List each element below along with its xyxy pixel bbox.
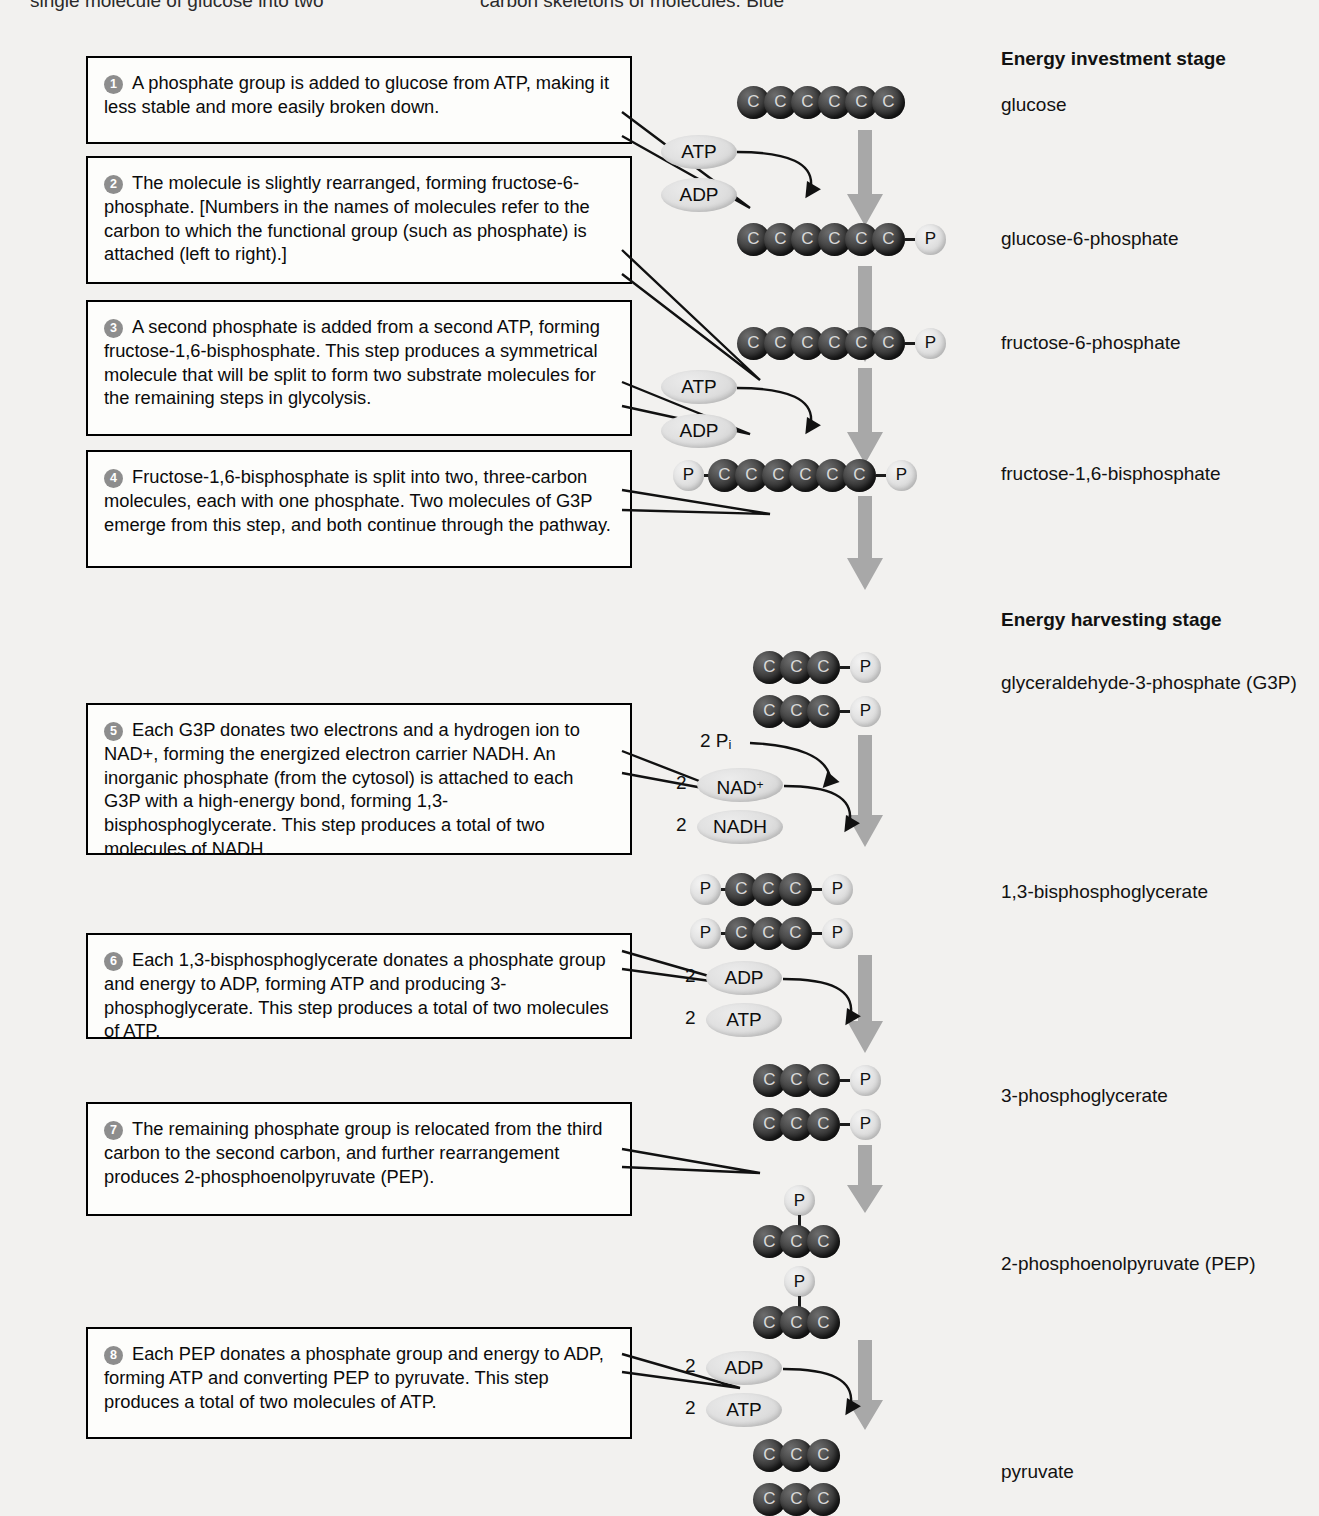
step-callout-7: 7The remaining phosphate group is reloca… <box>86 1102 632 1216</box>
phosphate-group <box>915 224 946 255</box>
step-text-5: Each G3P donates two electrons and a hyd… <box>104 719 580 859</box>
phosphate-group <box>850 1065 881 1096</box>
cofactor-atp-2: ATP <box>661 370 737 404</box>
cofactor-atp-3: ATP <box>706 1003 782 1037</box>
carbon-atom <box>872 327 905 360</box>
carbon-atom <box>807 1225 840 1258</box>
molecule-pyruvate-copy-1 <box>753 1438 840 1472</box>
reaction-arrow-3 <box>845 368 885 468</box>
step-text-1: A phosphate group is added to glucose fr… <box>104 72 609 117</box>
step-callout-2: 2The molecule is slightly rearranged, fo… <box>86 156 632 284</box>
inorganic-phosphate-label: 2 Pi <box>700 730 731 752</box>
molecule-label-glucose-6-phosphate: glucose-6-phosphate <box>1001 228 1178 250</box>
stage-title-energy-harvesting: Energy harvesting stage <box>1001 609 1222 631</box>
cut-text-right: carbon skeletons of molecules. Blue <box>480 0 784 12</box>
molecule-g3p-copy-1 <box>753 650 881 684</box>
molecule-pep-copy-2 <box>753 1266 863 1346</box>
reaction-arrow-6 <box>845 955 885 1057</box>
cofactor-adp-2: ADP <box>661 414 737 448</box>
bond-line <box>905 342 915 345</box>
molecule-label-pyruvate: pyruvate <box>1001 1461 1074 1483</box>
adp-coefficient-2: 2 <box>685 1355 696 1377</box>
carbon-atom <box>807 1108 840 1141</box>
bond-line <box>840 666 850 669</box>
bond-line <box>840 1079 850 1082</box>
bond-line <box>876 474 886 477</box>
carbon-atom <box>807 1483 840 1516</box>
phosphate-group <box>850 652 881 683</box>
molecule-label-glucose: glucose <box>1001 94 1067 116</box>
molecule-g3p-copy-2 <box>753 694 881 728</box>
step-callout-1: 1A phosphate group is added to glucose f… <box>86 56 632 144</box>
cofactor-adp-1: ADP <box>661 178 737 212</box>
step-badge-4: 4 <box>104 469 123 488</box>
phosphate-group <box>915 328 946 359</box>
carbon-atom <box>807 695 840 728</box>
cofactor-atp-4: ATP <box>706 1393 782 1427</box>
step-badge-5: 5 <box>104 722 123 741</box>
molecule-3pg-copy-1 <box>753 1063 881 1097</box>
step-text-2: The molecule is slightly rearranged, for… <box>104 172 590 264</box>
carbon-atom <box>807 1306 840 1339</box>
bond-line <box>812 888 822 891</box>
cofactor-arrow-1 <box>735 140 845 210</box>
carbon-atom <box>807 651 840 684</box>
carbon-atom <box>872 223 905 256</box>
phosphate-group <box>784 1266 815 1297</box>
cofactor-atp-1: ATP <box>661 135 737 169</box>
cofactor-adp-4: ADP <box>706 1351 782 1385</box>
cofactor-nad-plus: NAD+ <box>697 768 783 802</box>
reaction-arrow-5 <box>845 735 885 851</box>
step-badge-7: 7 <box>104 1121 123 1140</box>
phosphate-group <box>850 1109 881 1140</box>
bond-line <box>840 710 850 713</box>
step-callout-8: 8Each PEP donates a phosphate group and … <box>86 1327 632 1439</box>
reaction-arrow-1 <box>845 130 885 230</box>
page-top-cut-text: single molecule of glucose into two carb… <box>0 0 1319 18</box>
molecule-glucose-6-phosphate <box>737 222 946 256</box>
atp-coefficient-2: 2 <box>685 1397 696 1419</box>
molecule-13bpg-copy-1 <box>690 872 853 906</box>
bond-line <box>905 238 915 241</box>
step-badge-6: 6 <box>104 952 123 971</box>
step-callout-4: 4Fructose-1,6-bisphosphate is split into… <box>86 450 632 568</box>
carbon-atom <box>807 1064 840 1097</box>
step-badge-2: 2 <box>104 175 123 194</box>
molecule-label-pep: 2-phosphoenolpyruvate (PEP) <box>1001 1253 1256 1275</box>
carbon-atom <box>843 459 876 492</box>
nadh-coefficient: 2 <box>676 814 687 836</box>
step-text-3: A second phosphate is added from a secon… <box>104 316 600 408</box>
phosphate-group <box>886 460 917 491</box>
step-text-6: Each 1,3-bisphosphoglycerate donates a p… <box>104 949 609 1041</box>
step-callout-3: 3A second phosphate is added from a seco… <box>86 300 632 436</box>
molecule-label-3pg: 3-phosphoglycerate <box>1001 1085 1168 1107</box>
adp-coefficient-1: 2 <box>685 965 696 987</box>
phosphate-group <box>822 918 853 949</box>
phosphate-group <box>784 1185 815 1216</box>
phosphate-group <box>690 918 721 949</box>
pointer-line-2 <box>620 240 770 390</box>
step-badge-8: 8 <box>104 1346 123 1365</box>
molecule-pep-copy-1 <box>753 1185 863 1265</box>
carbon-atom <box>872 86 905 119</box>
reaction-arrow-4 <box>845 496 885 594</box>
step-badge-1: 1 <box>104 75 123 94</box>
carbon-atom <box>779 917 812 950</box>
carbon-atom <box>779 873 812 906</box>
molecule-fructose-1-6-bisphosphate <box>673 458 917 492</box>
stage-title-energy-investment: Energy investment stage <box>1001 48 1226 70</box>
molecule-label-g3p: glyceraldehyde-3-phosphate (G3P) <box>1001 672 1297 694</box>
nad-coefficient: 2 <box>676 772 687 794</box>
reaction-arrow-8 <box>845 1340 885 1432</box>
molecule-label-fructose-6-phosphate: fructose-6-phosphate <box>1001 332 1181 354</box>
bond-line <box>812 932 822 935</box>
step-text-7: The remaining phosphate group is relocat… <box>104 1118 603 1187</box>
cut-text-left: single molecule of glucose into two <box>30 0 324 12</box>
molecule-label-fructose-1-6-bisphosphate: fructose-1,6-bisphosphate <box>1001 463 1221 485</box>
molecule-13bpg-copy-2 <box>690 916 853 950</box>
atp-coefficient-1: 2 <box>685 1007 696 1029</box>
step-badge-3: 3 <box>104 319 123 338</box>
cofactor-nadh: NADH <box>697 810 783 844</box>
step-callout-5: 5Each G3P donates two electrons and a hy… <box>86 703 632 855</box>
